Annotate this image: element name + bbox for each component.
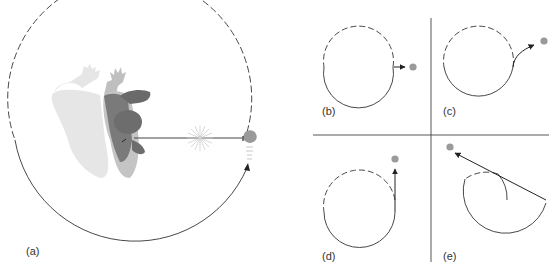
panel-a: (a) xyxy=(8,0,257,257)
ball-object xyxy=(243,130,257,159)
ball-object xyxy=(409,63,416,70)
panel-e: (e) xyxy=(443,143,546,262)
ball-object xyxy=(391,155,398,162)
break-burst-icon xyxy=(187,125,213,151)
panel-label-c: (c) xyxy=(443,105,456,117)
panel-c: (c) xyxy=(443,26,548,117)
person-shadow xyxy=(52,64,109,178)
panel-label-e: (e) xyxy=(443,250,456,262)
panel-d: (d) xyxy=(322,155,399,262)
panel-label-b: (b) xyxy=(322,105,335,117)
panel-b: (b) xyxy=(322,26,417,117)
ball-object xyxy=(540,37,547,44)
person-figure xyxy=(103,67,150,178)
diagram-canvas: (a) (b) (c) (d) (e) xyxy=(0,0,554,276)
panel-label-a: (a) xyxy=(26,245,39,257)
ball-object xyxy=(446,143,453,150)
panel-label-d: (d) xyxy=(322,250,335,262)
arrowhead-icon xyxy=(244,163,250,171)
